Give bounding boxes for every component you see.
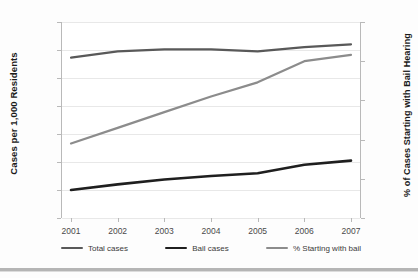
legend-swatch-icon [266,247,288,250]
chart-legend: Total casesBail cases% Starting with bai… [61,241,361,255]
y-axis-right-tick-mark [361,61,365,62]
x-axis-tick-mark [258,218,259,222]
x-axis-tick-label: 2001 [48,226,94,236]
legend-label: Total cases [88,244,128,253]
y-axis-right-title: % of Cases Starting with Bail Hearing [402,0,412,230]
y-axis-left-tick-mark [57,218,61,219]
x-axis-tick-label: 2002 [95,226,141,236]
page-divider-shadow [0,271,418,272]
legend-label: Bail cases [192,244,228,253]
x-axis-tick-label: 2005 [235,226,281,236]
x-axis-tick-label: 2007 [328,226,374,236]
legend-label: % Starting with bail [293,244,361,253]
y-axis-right-tick-mark [361,22,365,23]
x-axis-tick-mark [164,218,165,222]
y-axis-left-title: Cases per 1,000 Residents [8,38,19,190]
x-axis-tick-mark [304,218,305,222]
x-axis-tick-mark [211,218,212,222]
x-axis-tick-mark [118,218,119,222]
x-axis-tick-label: 2006 [281,226,327,236]
y-axis-right-tick-mark [361,100,365,101]
y-axis-right-tick-mark [361,179,365,180]
series-line [71,161,351,190]
y-axis-right-tick-mark [361,218,365,219]
legend-swatch-icon [165,247,187,250]
legend-item[interactable]: % Starting with bail [266,244,361,253]
legend-item[interactable]: Bail cases [165,244,228,253]
legend-swatch-icon [61,247,83,250]
legend-item[interactable]: Total cases [61,244,128,253]
series-line [71,44,351,57]
x-axis-tick-label: 2003 [141,226,187,236]
plot-area: 4681012141618 303540455055 2001200220032… [61,22,361,218]
x-axis-tick-label: 2004 [188,226,234,236]
y-axis-right-tick-mark [361,140,365,141]
x-axis-tick-mark [71,218,72,222]
chart-figure: Cases per 1,000 Residents % of Cases Sta… [0,0,418,278]
data-series-group [61,22,361,218]
x-axis-tick-mark [351,218,352,222]
series-line [71,55,351,144]
